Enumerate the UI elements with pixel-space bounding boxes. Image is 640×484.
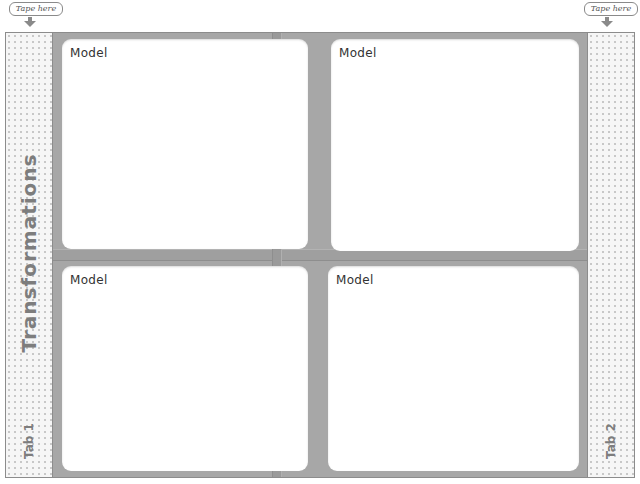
card-label: Model bbox=[70, 46, 108, 60]
card-label: Model bbox=[70, 273, 108, 287]
tab-2-label: Tab 2 bbox=[604, 423, 618, 459]
card-label: Model bbox=[336, 273, 374, 287]
card-label: Model bbox=[339, 46, 377, 60]
model-card-top-right: Model bbox=[331, 39, 579, 251]
model-card-bottom-right: Model bbox=[328, 266, 579, 471]
foldable-title: Transformations bbox=[17, 154, 41, 353]
model-card-top-left: Model bbox=[62, 39, 308, 249]
foldable-frame: Transformations Tab 1 Tab 2 Model Model … bbox=[5, 32, 635, 478]
model-card-bottom-left: Model bbox=[62, 266, 308, 471]
tab-strip-right: Tab 2 bbox=[587, 33, 634, 477]
tab-1-label: Tab 1 bbox=[22, 423, 36, 459]
tape-here-left-tag: Tape here bbox=[9, 2, 63, 16]
tape-here-right-tag: Tape here bbox=[584, 2, 638, 16]
tab-strip-left: Transformations Tab 1 bbox=[6, 33, 53, 477]
